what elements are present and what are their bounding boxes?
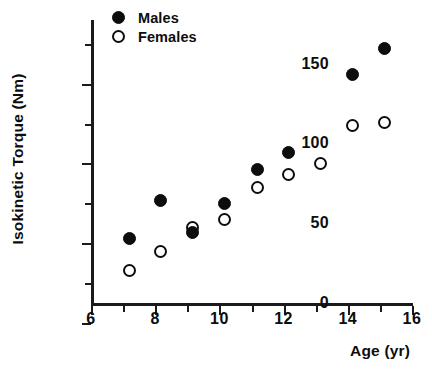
x-tick-label: 16 [392,310,432,328]
legend-label-males: Males [138,10,179,26]
data-point-females [346,119,359,132]
plot-area [91,20,412,304]
data-point-males [154,194,167,207]
data-point-females [123,264,136,277]
x-tick-minor [252,306,254,312]
legend-item-females: Females [112,27,212,46]
y-tick-label: 100 [269,134,329,152]
legend-label-females: Females [138,29,197,45]
filled-circle-icon [112,11,125,24]
x-tick-label: 6 [71,310,111,328]
x-tick-label: 8 [135,310,175,328]
data-point-males [123,232,136,245]
data-point-males [186,226,199,239]
y-tick-major [82,163,91,165]
x-tick-minor [123,306,125,312]
data-point-males [282,146,295,159]
x-tick-label: 12 [264,310,304,328]
data-point-females [378,116,391,129]
legend-item-males: Males [112,8,212,27]
x-tick-label: 14 [328,310,368,328]
data-point-males [218,197,231,210]
y-tick-major [82,84,91,86]
open-circle-icon [112,30,125,43]
x-tick-minor [187,306,189,312]
y-tick-major [82,243,91,245]
x-tick-minor [380,306,382,312]
data-point-females [218,213,231,226]
data-point-males [346,68,359,81]
isokinetic-torque-scatter-chart: Isokinetic Torque (Nm) Age (yr) Males Fe… [0,0,432,373]
x-axis-title: Age (yr) [350,342,410,360]
y-tick-label: 50 [269,214,329,232]
data-point-females [314,157,327,170]
y-tick-label: 150 [269,55,329,73]
y-axis-title: Isokinetic Torque (Nm) [9,24,27,294]
chart-legend: Males Females [112,8,212,46]
data-point-females [154,245,167,258]
x-tick-label: 10 [199,310,239,328]
